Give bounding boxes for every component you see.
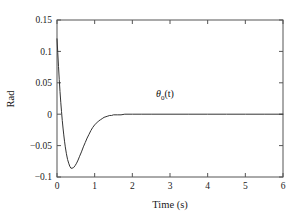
- x-tick-label: 1: [92, 181, 97, 191]
- x-tick-label: 0: [55, 181, 60, 191]
- x-tick-label: 2: [130, 181, 135, 191]
- y-tick-label: 0: [47, 110, 52, 120]
- y-tick-label: 0.1: [40, 47, 52, 57]
- x-tick-label: 4: [205, 181, 210, 191]
- x-axis-tick-labels: 0123456: [55, 181, 286, 191]
- y-axis-title: Rad: [5, 90, 16, 108]
- x-tick-label: 3: [168, 181, 173, 191]
- theta0-curve-label: θ0(t): [156, 88, 174, 102]
- y-tick-label: −0.05: [30, 141, 52, 151]
- y-tick-label: −0.1: [35, 172, 52, 182]
- data-series-group: [57, 39, 283, 168]
- theta-suffix: (t): [164, 88, 173, 100]
- y-axis-tick-labels: 0.150.10.050−0.05−0.1: [30, 15, 52, 182]
- x-tick-label: 5: [243, 181, 248, 191]
- y-tick-label: 0.05: [35, 78, 52, 88]
- x-axis-title: Time (s): [152, 199, 188, 211]
- data-line-theta0: [57, 39, 283, 168]
- x-tick-label: 6: [281, 181, 286, 191]
- chart-canvas: 0123456 0.150.10.050−0.05−0.1 Time (s) R…: [0, 0, 301, 219]
- y-tick-label: 0.15: [35, 15, 52, 25]
- figure-container: 0123456 0.150.10.050−0.05−0.1 Time (s) R…: [0, 0, 301, 219]
